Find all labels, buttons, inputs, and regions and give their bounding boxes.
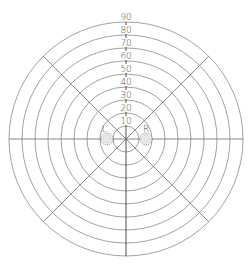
left-eye-marker: L [101,124,113,145]
spoke-135 [43,56,126,139]
left-eye-label: L [102,124,107,134]
ring-label-70: 70 [121,38,132,48]
spoke-45 [126,56,209,139]
ring-label-10: 10 [121,116,132,126]
polar-grid-chart: 102030405060708090 LR [0,0,252,270]
ring-label-20: 20 [121,103,132,113]
ring-labels: 102030405060708090 [119,12,133,126]
spoke-225 [43,139,126,222]
right-eye-label: R [143,124,149,134]
ring-label-50: 50 [121,64,132,74]
ring-label-40: 40 [121,77,132,87]
right-eye-marker: R [140,124,152,145]
ring-label-30: 30 [121,90,132,100]
ring-label-90: 90 [121,12,132,22]
eye-markers: LR [101,124,152,145]
ring-label-60: 60 [121,51,132,61]
spoke-315 [126,139,209,222]
ring-label-80: 80 [121,25,132,35]
